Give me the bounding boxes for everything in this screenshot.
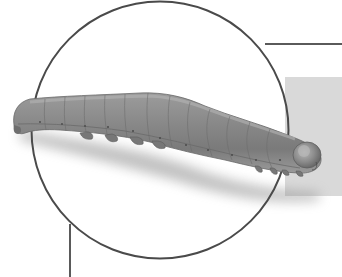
illustration-stage: caterpillar: [0, 0, 342, 277]
caterpillar-illustration: [0, 0, 342, 277]
